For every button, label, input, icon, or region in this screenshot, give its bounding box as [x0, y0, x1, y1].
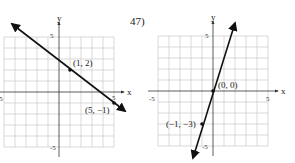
left-graph: x y 5 -5 -5 5 (1, 2) (5, −1) [0, 13, 132, 157]
left-point-2-label: (5, −1) [85, 105, 110, 115]
figure: x y 5 -5 -5 5 (1, 2) (5, −1) 47) x y 5 -… [0, 0, 295, 163]
right-point-1-label: (0, 0) [218, 80, 238, 90]
right-point-1 [211, 89, 215, 93]
problem-number: 47) [130, 15, 145, 28]
right-ytick-min: -5 [202, 143, 208, 151]
left-point-1 [68, 68, 72, 72]
left-point-1-label: (1, 2) [73, 58, 93, 68]
left-ytick-max: 5 [50, 32, 54, 40]
left-y-label: y [57, 13, 62, 23]
right-x-label: x [281, 86, 286, 96]
left-x-label: x [127, 87, 132, 97]
right-ytick-max: 5 [205, 32, 209, 40]
left-xtick-min: -5 [0, 95, 3, 103]
right-xtick-min: -5 [149, 95, 155, 103]
right-point-2 [200, 122, 204, 126]
right-graph: x y 5 -5 -5 5 (0, 0) (−1, −3) [148, 12, 286, 158]
right-y-label: y [211, 12, 216, 22]
left-point-2 [112, 101, 116, 105]
right-xtick-max: 5 [266, 95, 270, 103]
left-ytick-min: -5 [50, 144, 56, 152]
right-point-2-label: (−1, −3) [166, 119, 196, 129]
